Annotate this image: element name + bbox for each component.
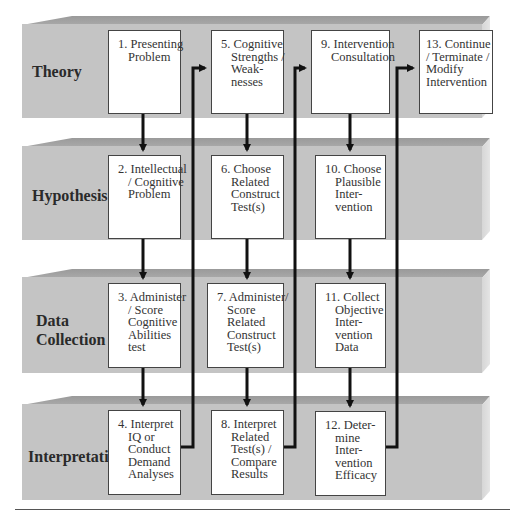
box-text: 10. Choose — [325, 163, 379, 176]
box-text: Efficacy — [325, 469, 379, 482]
arrow-8-to-9 — [284, 68, 305, 447]
band-side-face — [482, 138, 494, 240]
box-text: 7. Administer/ — [217, 291, 277, 304]
box-text: 2. Intellectual — [118, 163, 174, 176]
box-step-12: 12. Deter- mine Inter- vention Efficacy — [315, 411, 386, 496]
box-step-10: 10. Choose Plausible Inter- vention — [315, 155, 386, 239]
band-side-face — [482, 269, 494, 373]
row-label-theory: Theory — [32, 62, 82, 81]
box-text: 13. Continue — [426, 38, 486, 51]
box-text: Analyses — [118, 468, 174, 481]
box-step-13: 13. Continue / Terminate / Modify Interv… — [419, 30, 493, 114]
box-text: Intervention — [426, 76, 486, 89]
box-text: 12. Deter- — [325, 419, 379, 432]
box-text: 4. Interpret — [118, 418, 174, 431]
box-text: Inter- — [325, 316, 379, 329]
box-text: Modify — [426, 63, 486, 76]
box-step-9: 9. Intervention Consultation — [311, 30, 390, 114]
box-step-3: 3. Administer / Score Cognitive Abilitie… — [108, 283, 181, 368]
box-text: 9. Intervention — [321, 38, 383, 51]
arrow-12-to-13 — [386, 68, 413, 447]
box-text: Problem — [118, 51, 174, 64]
row-label-hypothesis: Hypothesis — [32, 186, 108, 205]
box-text: Cognitive — [118, 316, 174, 329]
box-text: Inter- — [325, 188, 379, 201]
box-text: 1. Presenting — [118, 38, 174, 51]
box-text: vention — [325, 201, 379, 214]
box-text: Consultation — [321, 51, 383, 64]
box-text: 5. Cognitive — [221, 38, 277, 51]
divider-rule — [15, 509, 510, 510]
box-step-7: 7. Administer/ Score Related Construct T… — [207, 283, 284, 368]
band-side-face — [482, 396, 494, 500]
box-text: Data — [325, 341, 379, 354]
box-text: Test(s) / — [221, 443, 277, 456]
arrow-4-to-5 — [181, 68, 205, 447]
box-step-1: 1. Presenting Problem — [108, 30, 181, 114]
row-label-line: Data — [36, 312, 69, 329]
box-text: 3. Administer — [118, 291, 174, 304]
box-text: Test(s) — [217, 341, 277, 354]
box-text: Problem — [118, 188, 174, 201]
box-text: Inter- — [325, 444, 379, 457]
box-text: Conduct — [118, 443, 174, 456]
box-text: Abilities — [118, 329, 174, 342]
box-step-5: 5. Cognitive Strengths / Weak- nesses — [211, 30, 284, 114]
box-step-6: 6. Choose Related Construct Test(s) — [211, 155, 284, 239]
box-text: nesses — [221, 76, 277, 89]
box-text: 6. Choose — [221, 163, 277, 176]
box-text: Related — [217, 316, 277, 329]
box-step-8: 8. Interpret Related Test(s) / Compare R… — [211, 410, 284, 495]
box-text: Results — [221, 468, 277, 481]
box-text: 8. Interpret — [221, 418, 277, 431]
box-step-11: 11. Collect Objective Inter- vention Dat… — [315, 283, 386, 368]
box-text: test — [118, 341, 174, 354]
box-text: Test(s) — [221, 201, 277, 214]
box-text: Construct — [221, 188, 277, 201]
box-text: 11. Collect — [325, 291, 379, 304]
row-label-line: Collection — [36, 331, 105, 348]
box-step-4: 4. Interpret IQ or Conduct Demand Analys… — [108, 410, 181, 495]
box-step-2: 2. Intellectual / Cognitive Problem — [108, 155, 181, 239]
box-text: Weak- — [221, 63, 277, 76]
row-label-data-collection: Data Collection — [36, 311, 105, 349]
